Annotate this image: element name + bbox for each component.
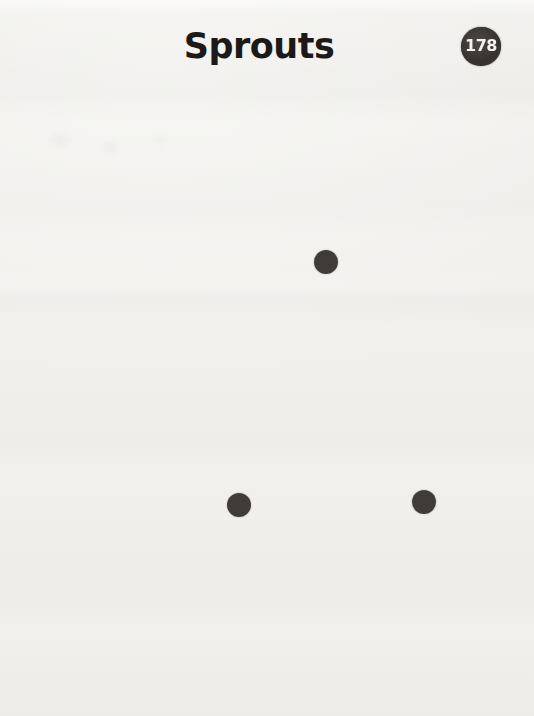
sprout-spot[interactable] [412,490,436,514]
spots-layer [0,0,534,716]
sprout-spot[interactable] [227,493,251,517]
game-page: Sprouts 178 [0,0,534,716]
sprout-spot[interactable] [314,250,338,274]
